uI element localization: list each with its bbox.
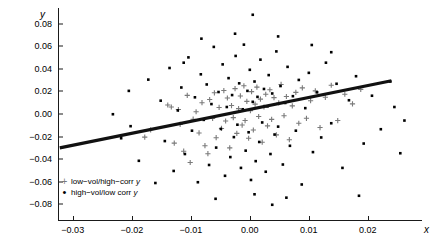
data-point-plus — [242, 118, 247, 123]
data-point-dot — [250, 179, 253, 182]
data-point-dot — [263, 88, 266, 91]
data-point-dot — [180, 86, 183, 89]
data-point-plus — [205, 151, 210, 156]
data-point-dot — [253, 193, 256, 196]
x-axis-label: x — [424, 224, 429, 235]
data-point-plus — [246, 136, 251, 141]
data-point-dot — [279, 85, 282, 88]
data-points-layer — [112, 13, 406, 206]
data-point-dot — [205, 83, 208, 86]
data-point-dot — [300, 183, 303, 186]
data-point-dot — [112, 113, 115, 116]
x-axis-spine — [58, 220, 422, 221]
x-tick-label: −0.01 — [179, 225, 202, 235]
data-point-plus — [281, 113, 286, 118]
data-point-plus — [300, 85, 305, 90]
data-point-plus — [244, 99, 249, 104]
data-point-dot — [297, 79, 300, 82]
data-point-plus — [267, 87, 272, 92]
data-point-dot — [182, 61, 185, 64]
data-point-dot — [240, 167, 243, 170]
data-point-plus — [142, 135, 147, 140]
data-point-dot — [341, 167, 344, 170]
data-point-plus — [329, 83, 334, 88]
data-point-dot — [213, 46, 216, 49]
data-point-plus — [231, 115, 236, 120]
y-tick-label: 0.00 — [0, 109, 52, 119]
data-point-plus — [232, 86, 237, 91]
data-point-dot — [320, 136, 323, 139]
data-point-dot — [330, 122, 333, 125]
data-point-plus — [304, 116, 309, 121]
data-point-plus — [296, 121, 301, 126]
data-point-dot — [238, 82, 241, 85]
data-point-dot — [168, 67, 171, 70]
data-point-plus — [234, 131, 239, 136]
legend: +low−vol/high−corr y•high−vol/low corr y — [60, 176, 140, 198]
y-tick-label: −0.02 — [0, 132, 52, 142]
legend-item: •high−vol/low corr y — [60, 187, 140, 198]
data-point-dot — [277, 125, 280, 128]
data-point-plus — [251, 127, 256, 132]
data-point-dot — [159, 99, 162, 102]
data-point-dot — [399, 152, 402, 155]
data-point-dot — [273, 133, 276, 136]
scatter-plot-figure: y x 0.080.060.040.020.00−0.02−0.04−0.06−… — [0, 0, 436, 245]
data-point-dot — [221, 63, 224, 66]
data-point-plus — [254, 85, 259, 90]
data-point-dot — [316, 91, 319, 94]
data-point-plus — [256, 114, 261, 119]
data-point-plus — [223, 118, 228, 123]
data-point-plus — [199, 100, 204, 105]
data-point-dot — [234, 32, 237, 35]
data-point-dot — [194, 96, 197, 99]
x-tick-label: −0.02 — [120, 225, 143, 235]
data-point-dot — [229, 156, 232, 159]
data-point-plus — [212, 90, 217, 95]
data-point-plus — [241, 83, 246, 88]
data-point-plus — [317, 125, 322, 130]
data-point-dot — [271, 92, 274, 95]
data-point-dot — [233, 136, 236, 139]
data-point-dot — [129, 125, 132, 128]
data-point-dot — [358, 194, 361, 197]
data-point-dot — [371, 94, 374, 97]
legend-item: +low−vol/high−corr y — [60, 176, 140, 187]
data-point-plus — [342, 92, 347, 97]
data-point-dot — [330, 51, 333, 54]
data-point-plus — [263, 92, 268, 97]
data-point-plus — [269, 117, 274, 122]
data-point-plus — [271, 95, 276, 100]
data-point-dot — [231, 94, 234, 97]
data-point-plus — [172, 140, 177, 145]
y-tick-label: 0.04 — [0, 64, 52, 74]
x-tick-label: −0.03 — [61, 225, 84, 235]
data-point-dot — [286, 66, 289, 69]
data-point-plus — [217, 105, 222, 110]
data-point-plus — [240, 122, 245, 127]
data-point-dot — [249, 69, 252, 72]
legend-label: high−vol/low corr y — [71, 187, 137, 198]
data-point-dot — [277, 35, 280, 38]
data-point-dot — [251, 101, 254, 104]
data-point-dot — [348, 99, 351, 102]
data-point-dot — [197, 181, 200, 184]
data-point-dot — [243, 43, 246, 46]
data-point-dot — [128, 90, 131, 93]
data-point-plus — [290, 103, 295, 108]
data-point-plus — [265, 123, 270, 128]
data-point-dot — [214, 198, 217, 201]
data-point-dot — [251, 13, 254, 16]
data-point-plus — [188, 160, 193, 165]
data-point-dot — [120, 137, 123, 140]
data-point-dot — [200, 73, 203, 76]
data-point-dot — [187, 56, 190, 59]
data-point-plus — [194, 109, 199, 114]
data-point-dot — [246, 90, 249, 93]
data-point-plus — [214, 135, 219, 140]
data-point-dot — [224, 175, 227, 178]
data-point-dot — [258, 141, 261, 144]
data-point-dot — [269, 153, 272, 156]
legend-label: low−vol/high−corr y — [71, 176, 140, 187]
data-point-plus — [229, 103, 234, 108]
